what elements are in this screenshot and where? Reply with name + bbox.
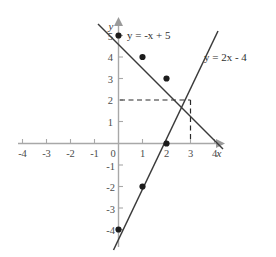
equation-label-line2: y = 2x - 4 <box>204 51 247 63</box>
y-tick-label--4: -4 <box>106 225 115 236</box>
line-series-1 <box>98 24 223 149</box>
graph-canvas: -4 -3 -2 -1 0 1 2 3 4 5 4 3 2 1 -1 -2 -3… <box>0 0 276 257</box>
y-axis-name: y <box>108 20 114 32</box>
coordinate-graph-figure: -4 -3 -2 -1 0 1 2 3 4 5 4 3 2 1 -1 -2 -3… <box>0 0 276 257</box>
x-tick-label-0: 0 <box>110 148 115 159</box>
line-series-2 <box>114 31 219 250</box>
x-tick-label--3: -3 <box>42 148 51 159</box>
y-axis-group <box>114 17 123 247</box>
point-1-neg2 <box>139 183 145 189</box>
point-2-3 <box>163 75 169 81</box>
y-tick-labels: 5 4 3 2 1 -1 -2 -3 -4 <box>106 31 115 237</box>
y-tick-label-2: 2 <box>108 95 113 106</box>
y-tick-label-4: 4 <box>108 52 114 63</box>
y-tick-label-1: 1 <box>108 117 113 128</box>
point-2-0 <box>163 140 169 146</box>
y-axis-arrow-icon <box>114 17 123 26</box>
x-tick-label-3: 3 <box>188 148 193 159</box>
x-tick-label-1: 1 <box>140 148 145 159</box>
x-tick-label--2: -2 <box>66 148 75 159</box>
y-tick-label--1: -1 <box>106 161 115 172</box>
y-tick-label--3: -3 <box>106 204 115 215</box>
y-tick-label--2: -2 <box>106 182 115 193</box>
point-0-5 <box>115 32 121 38</box>
line-y-equals-neg-x-plus-5 <box>98 24 223 149</box>
equation-label-line1: y = -x + 5 <box>127 29 171 41</box>
x-tick-label-2: 2 <box>164 148 169 159</box>
point-0-neg4 <box>115 226 121 232</box>
x-tick-label--1: -1 <box>90 148 99 159</box>
point-1-4 <box>139 54 145 60</box>
x-axis-name: x <box>216 147 222 159</box>
x-tick-label--4: -4 <box>18 148 27 159</box>
y-tick-label-3: 3 <box>108 74 113 85</box>
